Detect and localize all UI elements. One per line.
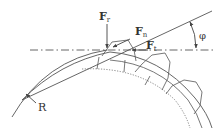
tooth-flank-3	[145, 76, 150, 85]
normal-force-label: Fn	[135, 25, 148, 39]
radial-force-label: Fr	[99, 10, 111, 24]
pressure-angle-label: φ	[199, 30, 206, 41]
radius-label: R	[38, 101, 47, 114]
normal-force-arrow	[113, 39, 130, 47]
pressure-angle-arc	[190, 22, 196, 48]
pitch-circle-arc	[22, 52, 212, 128]
tangential-force-label: Ft	[146, 39, 157, 53]
tooth-flank-2	[97, 57, 99, 69]
gear-force-diagram: Fr Fn Ft φ R	[0, 0, 223, 130]
gear-tooth-3	[166, 80, 202, 114]
outer-circle-arc	[12, 50, 107, 117]
line-of-action	[22, 11, 212, 100]
